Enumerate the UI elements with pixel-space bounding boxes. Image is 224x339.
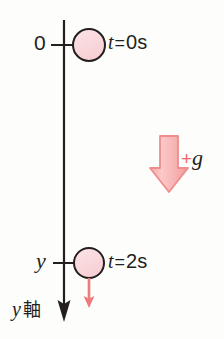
time-label-t0: t=0s xyxy=(108,32,147,52)
physics-diagram-free-fall: 0 y t=0s t=2s +g y軸 xyxy=(0,0,224,339)
ball-at-t2 xyxy=(74,248,104,278)
equals-sign-t0: = xyxy=(114,33,127,53)
gravity-symbol: g xyxy=(192,145,203,170)
time-variable-t0: t xyxy=(108,31,114,53)
time-value-t0: 0s xyxy=(126,31,147,53)
axis-caption: y軸 xyxy=(12,299,41,319)
equals-sign-t2: = xyxy=(114,252,127,272)
plus-sign: + xyxy=(181,148,192,169)
time-variable-t2: t xyxy=(108,250,114,272)
axis-caption-variable: y xyxy=(12,298,21,320)
origin-label: 0 xyxy=(34,32,46,53)
time-value-t2: 2s xyxy=(126,250,147,272)
time-label-t2: t=2s xyxy=(108,251,147,271)
position-label: y xyxy=(36,250,46,272)
gravity-label: +g xyxy=(181,147,203,169)
axis-caption-suffix: 軸 xyxy=(21,299,41,320)
ball-at-t0 xyxy=(73,29,105,61)
